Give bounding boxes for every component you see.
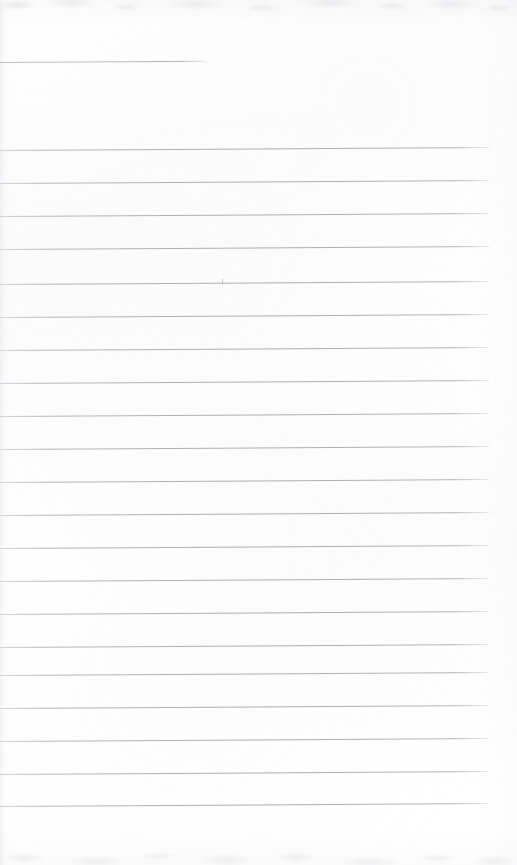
paper-surface [0, 0, 517, 865]
scanned-page [0, 0, 517, 865]
